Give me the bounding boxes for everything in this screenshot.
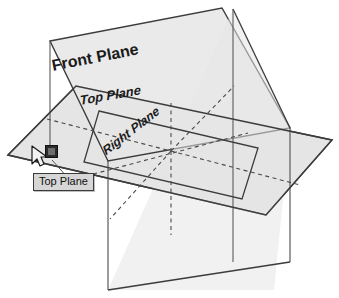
- tooltip-top-plane: Top Plane: [33, 173, 94, 191]
- plane-viewport: { "scene": { "title": "3D reference plan…: [0, 0, 339, 298]
- selection-handle[interactable]: [45, 145, 58, 158]
